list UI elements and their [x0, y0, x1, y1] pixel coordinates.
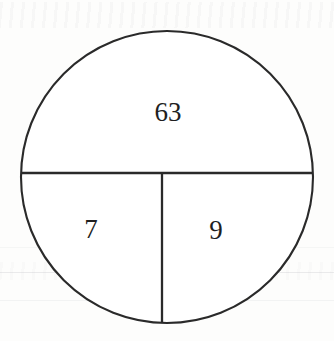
region-label-top-half: 63 — [155, 99, 182, 126]
figure-stage: 63 7 9 — [0, 0, 334, 341]
region-label-bottom-left-quarter: 7 — [84, 216, 98, 243]
divided-circle-diagram — [0, 0, 334, 341]
circle-outline — [21, 31, 313, 323]
region-label-bottom-right-quarter: 9 — [209, 217, 223, 244]
